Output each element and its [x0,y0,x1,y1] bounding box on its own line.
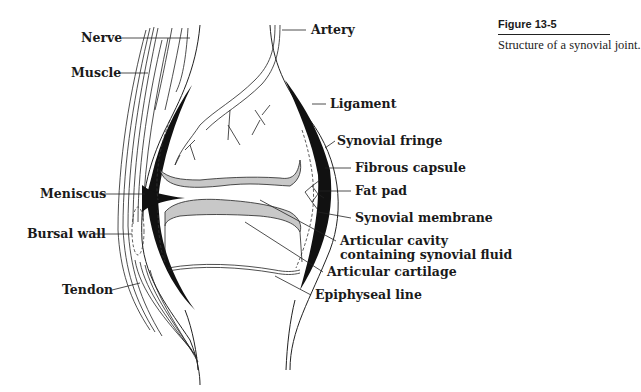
right-labels: Artery Ligament Synovial fringe Fibrous … [310,22,513,302]
left-labels: Nerve Muscle Meniscus Bursal wall Tendon [27,30,122,297]
upper-articular-cartilage [160,160,301,187]
label-fat-pad: Fat pad [355,183,407,198]
label-bursal-wall: Bursal wall [27,226,106,241]
label-fibrous-capsule: Fibrous capsule [355,160,466,175]
label-tendon: Tendon [62,282,113,297]
artery [175,25,280,165]
label-muscle: Muscle [71,65,121,80]
label-epiphyseal-line: Epiphyseal line [315,287,422,302]
label-artery: Artery [310,22,356,37]
tendon [135,260,198,362]
tibia-left-shaft [185,310,198,370]
label-articular-cartilage: Articular cartilage [326,264,457,279]
label-nerve: Nerve [81,30,122,45]
label-meniscus: Meniscus [40,186,106,201]
label-articular-cavity-line2: containing synovial fluid [340,247,513,262]
label-articular-cavity: Articular cavity [339,233,449,248]
lower-articular-cartilage [165,199,301,232]
label-synovial-membrane: Synovial membrane [355,210,493,225]
label-ligament: Ligament [330,96,397,111]
label-synovial-fringe: Synovial fringe [337,133,442,148]
